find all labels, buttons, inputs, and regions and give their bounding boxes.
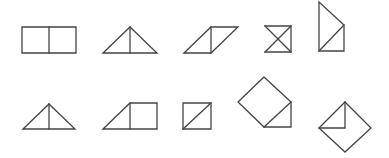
tall-trapezoid-shape	[319, 2, 344, 51]
hourglass-square-shape	[265, 26, 291, 52]
triangle-square-shape	[103, 103, 157, 129]
shape-line	[238, 77, 291, 127]
row-1	[22, 2, 344, 53]
shape-line	[319, 2, 344, 51]
diagonal-square-shape	[183, 103, 211, 129]
two-squares-shape	[22, 27, 76, 53]
geometric-shapes-diagram	[0, 0, 389, 158]
row-2	[23, 77, 371, 152]
shape-line	[183, 103, 211, 129]
shape-line	[319, 25, 344, 51]
rotated-square-triangle-shape	[238, 77, 291, 127]
envelope-diamond-shape	[319, 102, 371, 152]
parallelogram-shape	[184, 27, 238, 53]
split-triangle-shape	[103, 27, 157, 53]
diagram-canvas	[0, 0, 389, 158]
split-triangle-shape-2	[23, 104, 75, 129]
